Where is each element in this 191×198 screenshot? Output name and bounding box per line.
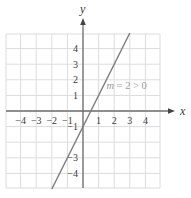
slope-annotation: m = 2 > 0 [106, 80, 146, 91]
x-tick-label: 3 [127, 115, 132, 126]
x-tick-label: 4 [143, 115, 148, 126]
y-tick-label: 2 [73, 74, 78, 85]
y-axis-label: y [79, 2, 86, 16]
y-axis-arrow-icon [80, 18, 86, 25]
y-tick-label: 3 [73, 59, 78, 70]
slope-chart: xy −4−3−2−112344321−1−3−4 m = 2 > 0 [0, 0, 191, 198]
annotations: m = 2 > 0 [106, 80, 146, 91]
x-tick-label: −2 [46, 115, 57, 126]
x-tick-label: 2 [112, 115, 117, 126]
x-axis-arrow-icon [168, 108, 175, 114]
x-tick-label: −4 [15, 115, 26, 126]
y-tick-label: −4 [67, 168, 78, 179]
x-axis-label: x [179, 104, 186, 118]
y-tick-label: −1 [67, 121, 78, 132]
x-tick-label: −3 [31, 115, 42, 126]
y-tick-label: 1 [73, 90, 78, 101]
y-tick-label: 4 [73, 43, 78, 54]
x-tick-label: 1 [96, 115, 101, 126]
